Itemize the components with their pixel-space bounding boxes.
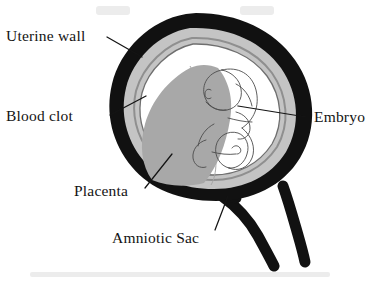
uterus-cross-section-diagram: Uterine wall Blood clot Placenta Amnioti… bbox=[0, 0, 388, 282]
scan-smudge-left bbox=[96, 6, 130, 15]
label-embryo: Embryo bbox=[314, 108, 365, 125]
label-blood-clot: Blood clot bbox=[6, 107, 74, 124]
scan-smudge-bottom bbox=[30, 272, 330, 277]
cervical-canal-lower-branch bbox=[222, 196, 274, 266]
label-placenta: Placenta bbox=[74, 182, 128, 199]
label-uterine-wall: Uterine wall bbox=[6, 27, 85, 44]
scan-smudge-right bbox=[240, 6, 274, 15]
cervical-canal-right-branch bbox=[283, 186, 305, 262]
diagram-root: Uterine wall Blood clot Placenta Amnioti… bbox=[0, 0, 388, 282]
label-amniotic-sac: Amniotic Sac bbox=[112, 229, 199, 246]
